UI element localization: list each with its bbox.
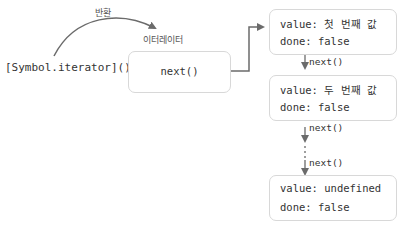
result-box-1: value: 첫 번째 값 done: false bbox=[269, 9, 397, 55]
result-box-3: value: undefined done: false bbox=[269, 175, 397, 221]
next-arrow-label: next() bbox=[309, 56, 343, 67]
result-box-2: value: 두 번째 값 done: false bbox=[269, 75, 397, 121]
done-line: done: false bbox=[280, 201, 350, 213]
return-label: 반환 bbox=[95, 6, 111, 19]
next-arrow-label: next() bbox=[309, 157, 343, 168]
iterator-box: next() bbox=[128, 51, 231, 93]
next-arrow-label: next() bbox=[309, 122, 343, 133]
symbol-iterator-call: [Symbol.iterator]() bbox=[5, 61, 131, 74]
done-line: done: false bbox=[280, 35, 350, 47]
done-line: done: false bbox=[280, 101, 350, 113]
iterator-label: 이터레이터 bbox=[143, 33, 183, 46]
value-line: value: 첫 번째 값 bbox=[280, 16, 377, 31]
next-method: next() bbox=[129, 65, 230, 77]
value-line: value: 두 번째 값 bbox=[280, 82, 377, 97]
value-line: value: undefined bbox=[280, 182, 381, 194]
